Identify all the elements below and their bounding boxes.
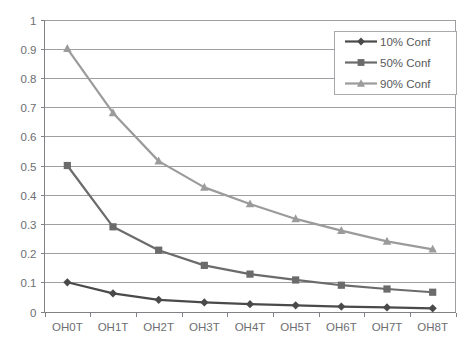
triangle-marker <box>63 44 71 52</box>
x-axis-tick-label: OH0T <box>52 321 83 333</box>
diamond-marker <box>155 296 163 304</box>
x-axis-tick-label: OH8T <box>417 321 448 333</box>
square-marker <box>155 247 162 254</box>
diamond-marker <box>429 304 437 312</box>
y-axis-tick-label: 0 <box>30 307 36 319</box>
square-marker <box>358 59 365 66</box>
series-50-conf <box>64 162 437 296</box>
chart-legend: 10% Conf50% Conf90% Conf <box>335 32 457 95</box>
x-axis-tick-label: OH6T <box>326 321 357 333</box>
y-axis-tick-label: 0.6 <box>21 131 37 143</box>
y-axis-tick-label: 0.4 <box>21 190 38 202</box>
x-axis-tick-label: OH5T <box>280 321 311 333</box>
legend-label: 50% Conf <box>380 57 431 69</box>
y-axis-tick-label: 0.1 <box>21 277 37 289</box>
line-chart: 10.90.80.70.60.50.40.30.20.10 OH0TOH1TOH… <box>0 0 466 351</box>
y-axis-tick-label: 0.8 <box>21 73 37 85</box>
square-marker <box>64 162 71 169</box>
y-axis-tick-label: 0.5 <box>21 161 37 173</box>
diamond-marker <box>200 298 208 306</box>
chart-canvas: 10.90.80.70.60.50.40.30.20.10 OH0TOH1TOH… <box>0 0 466 351</box>
square-marker <box>338 282 345 289</box>
x-axis-tick-label: OH2T <box>143 321 174 333</box>
x-axis-tick-label: OH1T <box>98 321 129 333</box>
x-axis-tick-label: OH3T <box>189 321 220 333</box>
series-10-conf <box>63 278 437 312</box>
legend-label: 90% Conf <box>380 78 431 90</box>
x-axis-tick-marks <box>46 313 457 317</box>
square-marker <box>383 285 390 292</box>
y-axis-tick-label: 1 <box>30 15 36 27</box>
square-marker <box>292 276 299 283</box>
square-marker <box>429 289 436 296</box>
y-axis-tick-label: 0.9 <box>21 44 37 56</box>
diamond-marker <box>292 301 300 309</box>
y-axis-tick-label: 0.7 <box>21 102 37 114</box>
x-axis-labels: OH0TOH1TOH2TOH3TOH4TOH5TOH6TOH7TOH8T <box>52 321 448 333</box>
square-marker <box>109 223 116 230</box>
square-marker <box>201 262 208 269</box>
square-marker <box>246 271 253 278</box>
diamond-marker <box>63 278 71 286</box>
diamond-marker <box>109 289 117 297</box>
diamond-marker <box>337 302 345 310</box>
x-axis-tick-label: OH4T <box>235 321 266 333</box>
y-axis-tick-marks <box>41 21 45 313</box>
x-axis-tick-label: OH7T <box>372 321 403 333</box>
y-axis-tick-label: 0.3 <box>21 219 37 231</box>
y-axis-tick-label: 0.2 <box>21 248 37 260</box>
diamond-marker <box>246 300 254 308</box>
legend-label: 10% Conf <box>380 36 431 48</box>
y-axis-labels: 10.90.80.70.60.50.40.30.20.10 <box>21 15 38 319</box>
diamond-marker <box>383 303 391 311</box>
